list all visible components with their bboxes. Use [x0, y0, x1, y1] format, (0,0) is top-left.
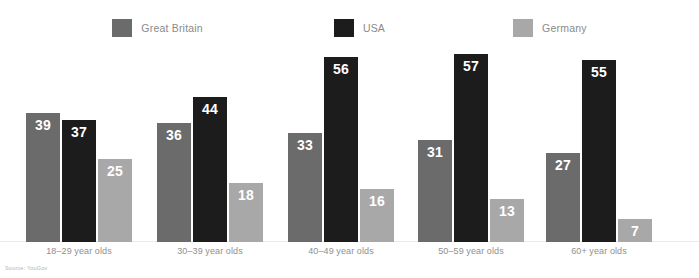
bar[interactable]: 13: [490, 199, 524, 242]
bar[interactable]: 16: [360, 189, 394, 242]
category-label: 18–29 year olds: [26, 246, 132, 256]
legend-item-germany: Germany: [513, 18, 587, 38]
bar[interactable]: 25: [98, 159, 132, 242]
bar[interactable]: 7: [618, 219, 652, 242]
bar-group-bars: 335616: [288, 46, 394, 242]
category-label: 40–49 year olds: [288, 246, 394, 256]
bar-group-bars: 27557: [546, 46, 652, 242]
bar[interactable]: 31: [418, 140, 452, 242]
bar-value-label: 44: [193, 102, 227, 116]
bar-value-label: 25: [98, 164, 132, 178]
legend-item-great-britain: Great Britain: [112, 18, 203, 38]
category-label: 30–39 year olds: [157, 246, 263, 256]
category-label: 50–59 year olds: [418, 246, 524, 256]
bar-value-label: 27: [546, 158, 580, 172]
bar[interactable]: 44: [193, 97, 227, 242]
bar-value-label: 39: [26, 118, 60, 132]
bar[interactable]: 56: [324, 57, 358, 242]
bar-value-label: 13: [490, 204, 524, 218]
bar[interactable]: 33: [288, 133, 322, 242]
grouped-bar-chart: Great Britain USA Germany 39372518–29 ye…: [0, 0, 699, 278]
bar-group-bars: 315713: [418, 46, 524, 242]
legend-label-usa: USA: [363, 23, 385, 34]
plot-area: 39372518–29 year olds36441830–39 year ol…: [0, 46, 699, 242]
legend-label-germany: Germany: [542, 23, 587, 34]
bar-group: 31571350–59 year olds: [418, 46, 524, 242]
bar[interactable]: 39: [26, 113, 60, 242]
bar-value-label: 55: [582, 65, 616, 79]
chart-legend: Great Britain USA Germany: [0, 17, 699, 39]
legend-label-great-britain: Great Britain: [141, 23, 203, 34]
category-label: 60+ year olds: [546, 246, 652, 256]
legend-item-usa: USA: [334, 18, 385, 38]
bar-group-bars: 364418: [157, 46, 263, 242]
bar[interactable]: 27: [546, 153, 580, 242]
bar-group: 2755760+ year olds: [546, 46, 652, 242]
bar-group: 39372518–29 year olds: [26, 46, 132, 242]
legend-swatch-germany: [513, 19, 533, 37]
bar-group: 33561640–49 year olds: [288, 46, 394, 242]
legend-swatch-great-britain: [112, 19, 132, 37]
bar-value-label: 31: [418, 145, 452, 159]
bar[interactable]: 18: [229, 183, 263, 242]
bar-value-label: 18: [229, 188, 263, 202]
bar-value-label: 56: [324, 62, 358, 76]
bar[interactable]: 36: [157, 123, 191, 242]
bar-value-label: 57: [454, 59, 488, 73]
bar-value-label: 36: [157, 128, 191, 142]
bar-value-label: 16: [360, 194, 394, 208]
bar-value-label: 33: [288, 138, 322, 152]
bar-group: 36441830–39 year olds: [157, 46, 263, 242]
bar-value-label: 37: [62, 125, 96, 139]
source-note: Source: YouGov: [5, 265, 48, 271]
bar-value-label: 7: [618, 224, 652, 238]
bar-group-bars: 393725: [26, 46, 132, 242]
legend-swatch-usa: [334, 19, 354, 37]
bar[interactable]: 57: [454, 54, 488, 242]
bar[interactable]: 55: [582, 60, 616, 242]
bar[interactable]: 37: [62, 120, 96, 242]
